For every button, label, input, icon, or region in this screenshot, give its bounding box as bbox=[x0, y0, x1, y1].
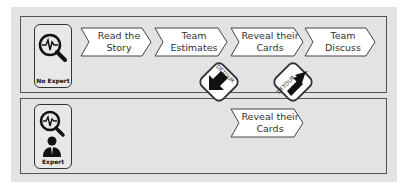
persona-label: No Expert bbox=[35, 77, 71, 84]
step-line1: Reveal their bbox=[236, 30, 304, 42]
magnifier-pulse-person-icon bbox=[35, 107, 71, 163]
detour-arrow-down-icon: DETOUR bbox=[196, 59, 242, 105]
step-team-discuss: TeamDiscuss bbox=[304, 27, 376, 57]
step-line1: Read the bbox=[86, 30, 152, 42]
detour-sign-up: DETOUR bbox=[270, 59, 316, 109]
step-line2: Cards bbox=[236, 42, 304, 54]
detour-arrow-up-icon: DETOUR bbox=[270, 59, 316, 105]
step-line2: Estimates bbox=[160, 42, 228, 54]
step-line1: Reveal their bbox=[236, 111, 304, 123]
magnifier-pulse-icon bbox=[35, 29, 71, 69]
lane-expert bbox=[20, 98, 387, 174]
step-line1: Team bbox=[160, 30, 228, 42]
persona-no-expert: No Expert bbox=[34, 24, 72, 88]
step-reveal-their-cards: Reveal theirCards bbox=[230, 27, 304, 57]
step-team-estimates: TeamEstimates bbox=[154, 27, 228, 57]
step-line2: Cards bbox=[236, 123, 304, 135]
step-line2: Story bbox=[86, 42, 152, 54]
persona-label: Expert bbox=[35, 158, 71, 165]
step-line1: Team bbox=[310, 30, 376, 42]
persona-expert: Expert bbox=[34, 104, 72, 169]
step-read-the-story: Read theStory bbox=[80, 27, 152, 57]
step-line2: Discuss bbox=[310, 42, 376, 54]
detour-sign-down: DETOUR bbox=[196, 59, 242, 109]
step-expert-reveal-their-cards: Reveal theirCards bbox=[230, 108, 304, 138]
